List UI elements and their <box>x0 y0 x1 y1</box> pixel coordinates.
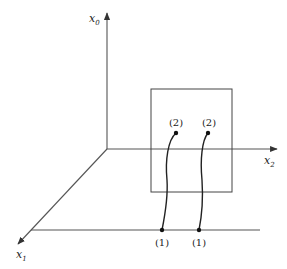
label-1-left: (1) <box>155 237 169 248</box>
x0-label: x0 <box>89 12 100 27</box>
point-2-left <box>174 131 178 135</box>
worldline-left <box>162 133 176 230</box>
label-1-right: (1) <box>192 237 206 248</box>
label-2-left: (2) <box>169 117 183 128</box>
x2-label: x2 <box>264 154 275 169</box>
label-2-right: (2) <box>202 117 216 128</box>
point-2-right <box>206 131 210 135</box>
point-1-left <box>160 228 164 232</box>
spacetime-diagram: (2) (2) (1) (1) x0 x2 x1 <box>0 0 287 269</box>
worldline-right <box>199 133 208 230</box>
x1-label: x1 <box>16 248 27 263</box>
point-1-right <box>197 228 201 232</box>
surface-rectangle <box>151 89 232 192</box>
